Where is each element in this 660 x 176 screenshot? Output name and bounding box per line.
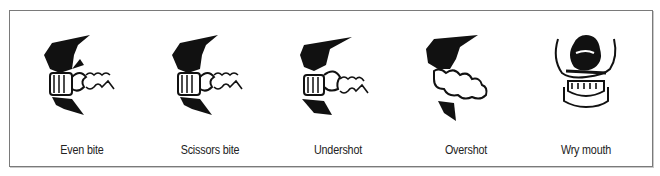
panel-label: Wry mouth bbox=[531, 143, 641, 157]
panel-label: Even bite bbox=[27, 143, 137, 157]
undershot-illustration-icon bbox=[288, 25, 388, 135]
panel-undershot: Undershot bbox=[274, 11, 402, 166]
wry-mouth-illustration-icon bbox=[536, 25, 636, 135]
panel-label: Overshot bbox=[411, 143, 521, 157]
panel-even-bite: Even bite bbox=[18, 11, 146, 166]
panel-label: Scissors bite bbox=[155, 143, 265, 157]
panel-scissors-bite: Scissors bite bbox=[146, 11, 274, 166]
scissors-bite-illustration-icon bbox=[160, 25, 260, 135]
panel-overshot: Overshot bbox=[402, 11, 530, 166]
panel-label: Undershot bbox=[283, 143, 393, 157]
overshot-illustration-icon bbox=[416, 25, 516, 135]
even-bite-illustration-icon bbox=[32, 25, 132, 135]
figure-frame: Even bite Scissors bite Undershot bbox=[9, 10, 653, 167]
panel-wry-mouth: Wry mouth bbox=[522, 11, 650, 166]
